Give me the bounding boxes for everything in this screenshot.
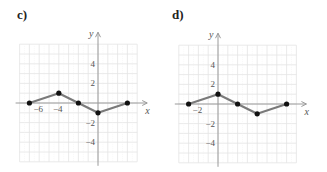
y-tick-label: −2	[85, 118, 95, 128]
x-tick-label: −4	[53, 104, 63, 114]
y-tick-label: 2	[91, 78, 96, 88]
y-tick-label: 2	[211, 79, 216, 89]
data-point	[235, 101, 240, 106]
panel-d: d) xy−242−2−4	[165, 0, 327, 172]
y-tick-label: −4	[205, 138, 215, 148]
data-point	[56, 91, 61, 96]
y-tick-label: −4	[85, 137, 95, 147]
data-point	[125, 100, 130, 105]
data-point	[284, 101, 289, 106]
x-tick-label: −6	[33, 104, 43, 114]
x-axis-label: x	[144, 105, 150, 116]
panel-c: c) xy−6−442−2−4	[0, 0, 165, 172]
data-point	[186, 101, 191, 106]
data-point	[95, 110, 100, 115]
chart-d: xy−242−2−4	[165, 0, 327, 172]
y-tick-label: 4	[211, 60, 216, 70]
y-tick-label: 4	[91, 59, 96, 69]
x-axis-label: x	[303, 106, 309, 117]
data-point	[215, 92, 220, 97]
y-axis-label: y	[208, 29, 214, 40]
chart-c: xy−6−442−2−4	[0, 0, 165, 172]
data-point	[76, 100, 81, 105]
y-axis-label: y	[88, 28, 94, 39]
y-tick-label: −2	[205, 119, 215, 129]
data-point	[255, 111, 260, 116]
data-point	[27, 100, 32, 105]
x-tick-label: −2	[193, 105, 203, 115]
